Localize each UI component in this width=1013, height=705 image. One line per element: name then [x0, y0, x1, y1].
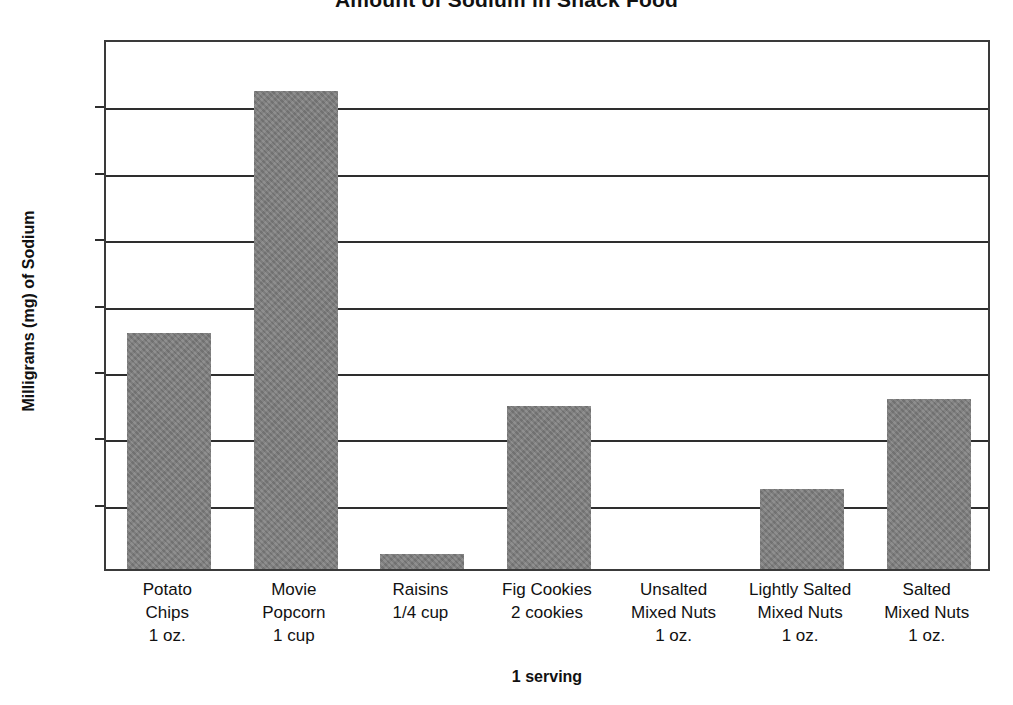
bar — [380, 554, 464, 569]
gridline — [106, 308, 988, 310]
x-axis-tick-label-line: 1 oz. — [610, 624, 737, 647]
bar — [127, 333, 211, 569]
x-axis-tick-label-line: Fig Cookies — [484, 578, 611, 601]
x-axis-tick-label: Fig Cookies2 cookies — [484, 578, 611, 624]
x-axis-tick-label: SaltedMixed Nuts1 oz. — [863, 578, 990, 647]
plot-area — [104, 40, 990, 571]
gridline — [106, 108, 988, 110]
x-axis-tick-label-line: Potato — [104, 578, 231, 601]
y-axis-tick-mark — [95, 306, 104, 308]
y-axis-tick-mark — [95, 173, 104, 175]
x-axis-tick-label-line: 1 cup — [231, 624, 358, 647]
x-axis-tick-label-line: Salted — [863, 578, 990, 601]
x-axis-tick-label-line: 2 cookies — [484, 601, 611, 624]
x-axis-tick-label-line: Unsalted — [610, 578, 737, 601]
gridline — [106, 374, 988, 376]
x-axis-tick-label-line: Mixed Nuts — [737, 601, 864, 624]
x-axis-tick-label: Lightly SaltedMixed Nuts1 oz. — [737, 578, 864, 647]
bar — [507, 406, 591, 569]
bar — [760, 489, 844, 569]
x-axis-tick-label: MoviePopcorn1 cup — [231, 578, 358, 647]
bar — [887, 399, 971, 569]
x-axis-tick-label-line: 1 oz. — [104, 624, 231, 647]
y-axis-tick-mark — [95, 239, 104, 241]
y-axis-title: Milligrams (mg) of Sodium — [20, 131, 38, 491]
x-axis-tick-label-line: Popcorn — [231, 601, 358, 624]
y-axis-tick-mark — [95, 106, 104, 108]
y-axis-tick-mark — [95, 372, 104, 374]
x-axis-tick-group: PotatoChips1 oz.MoviePopcorn1 cupRaisins… — [104, 578, 990, 662]
x-axis-tick-label: PotatoChips1 oz. — [104, 578, 231, 647]
gridline — [106, 175, 988, 177]
y-axis-tick-mark — [95, 438, 104, 440]
x-axis-tick-label-line: Movie — [231, 578, 358, 601]
x-axis-tick-label-line: Raisins — [357, 578, 484, 601]
chart-title: Amount of Sodium in Snack Food — [0, 0, 1013, 12]
x-axis-tick-label-line: Lightly Salted — [737, 578, 864, 601]
x-axis-tick-label-line: 1/4 cup — [357, 601, 484, 624]
x-axis-tick-label: UnsaltedMixed Nuts1 oz. — [610, 578, 737, 647]
x-axis-title: 1 serving — [104, 668, 990, 686]
x-axis-tick-label-line: Chips — [104, 601, 231, 624]
x-axis-tick-label-line: Mixed Nuts — [863, 601, 990, 624]
y-axis-tick-mark — [95, 505, 104, 507]
x-axis-tick-label: Raisins1/4 cup — [357, 578, 484, 624]
x-axis-tick-label-line: Mixed Nuts — [610, 601, 737, 624]
x-axis-tick-label-line: 1 oz. — [737, 624, 864, 647]
bar — [254, 91, 338, 569]
x-axis-tick-label-line: 1 oz. — [863, 624, 990, 647]
gridline — [106, 241, 988, 243]
